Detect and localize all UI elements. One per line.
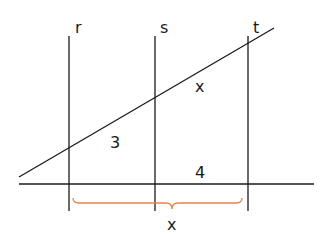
segment-label-x-upper: x: [195, 77, 204, 96]
label-t: t: [253, 18, 259, 37]
brace: [73, 198, 242, 209]
label-s: s: [160, 18, 168, 37]
label-r: r: [75, 18, 82, 37]
diagram-canvas: r s t 3 x 4 x: [0, 0, 336, 238]
diagonal-transversal: [19, 28, 274, 177]
segment-label-3: 3: [110, 133, 120, 152]
brace-label-x: x: [167, 215, 176, 234]
segment-label-4: 4: [195, 163, 205, 182]
